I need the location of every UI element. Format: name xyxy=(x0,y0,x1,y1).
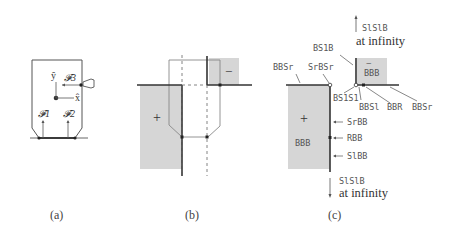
label-bs1b: BS1B xyxy=(313,43,333,53)
bbsr-right-pointer xyxy=(390,87,417,101)
bbsr-left-pointer xyxy=(296,74,300,83)
top-arrow-label: SlSlB xyxy=(362,23,388,33)
panel-b: + − (b) xyxy=(137,55,252,222)
bottom-infinity-arrowhead-icon xyxy=(329,194,332,198)
panel-a: ŷ x̂ 𝓕3 𝓕1 𝓕2 (a) xyxy=(30,60,94,222)
bs1b-pointer xyxy=(340,55,353,65)
contact-point-right xyxy=(73,136,76,139)
label-bbsr-left: BBSr xyxy=(273,62,293,72)
vertex-rbb xyxy=(329,136,332,139)
plus-region-label: + xyxy=(300,111,308,126)
top-arrow-sub: at infinity xyxy=(356,34,406,48)
force-1-label: 𝓕1 xyxy=(38,108,50,119)
label-srbb: SrBB xyxy=(347,117,367,127)
force-2-label: 𝓕2 xyxy=(63,108,75,119)
caption-c: (c) xyxy=(328,208,341,222)
label-bs1s1: BS1S1 xyxy=(333,93,359,103)
x-axis-label: x̂ xyxy=(75,92,80,103)
plus-region xyxy=(288,85,330,169)
contact-point-bottom-right xyxy=(206,136,209,139)
contact-point-bottom-left xyxy=(181,136,184,139)
y-axis-label: ŷ xyxy=(51,70,56,81)
label-srbsr: SrBSr xyxy=(308,62,334,72)
f1-arrowhead-icon xyxy=(42,120,45,123)
minus-region-name: BBB xyxy=(364,68,379,78)
force-3-label: 𝓕3 xyxy=(64,72,76,83)
bbr-pointer xyxy=(366,87,390,103)
minus-region xyxy=(209,58,239,85)
gripper-icon xyxy=(83,79,94,88)
bbs1-pointer xyxy=(359,87,361,100)
vertex-srbsr xyxy=(328,83,332,87)
vertex-bbr xyxy=(362,84,365,87)
top-infinity-arrowhead-icon xyxy=(355,15,358,19)
bottom-arrow-sub: at infinity xyxy=(339,186,389,200)
minus-region-label: − xyxy=(225,64,232,79)
bottom-arrow-label: SlSlB xyxy=(339,176,365,186)
slbb-arrowhead-icon xyxy=(333,155,336,158)
plus-region-name: BBB xyxy=(295,138,310,148)
contact-point-left xyxy=(37,136,40,139)
plus-region-label: + xyxy=(153,110,161,125)
srbb-arrowhead-icon xyxy=(333,121,336,124)
f2-arrowhead-icon xyxy=(67,120,70,123)
panel-c: SlSlB at infinity BS1B BBSr SrBSr − BBB … xyxy=(273,15,432,222)
label-bbs1: BBSl xyxy=(359,102,379,112)
srbsr-pointer xyxy=(323,74,329,83)
label-rbb: RBB xyxy=(347,133,362,143)
vertex-bs1s1 xyxy=(354,83,358,87)
caption-a: (a) xyxy=(50,208,63,222)
f3-arrowhead-icon xyxy=(62,84,65,87)
plus-region xyxy=(140,85,182,169)
contact-point-top-right xyxy=(219,84,222,87)
rbb-arrowhead-icon xyxy=(333,137,336,140)
figure-canvas: ŷ x̂ 𝓕3 𝓕1 𝓕2 (a) + − (b) xyxy=(0,0,457,238)
label-bbr: BBR xyxy=(387,102,403,112)
label-slbb: SlBB xyxy=(347,151,367,161)
caption-b: (b) xyxy=(185,208,199,222)
label-bbsr-right: BBSr xyxy=(412,102,432,112)
